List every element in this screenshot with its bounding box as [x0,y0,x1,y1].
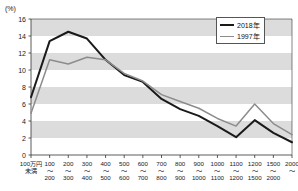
legend-label: 1997年 [237,31,260,41]
grid-band [31,121,292,138]
line-chart: (%) 0246810121416 100万円未満100〜200200〜3003… [0,0,298,191]
legend-item-2018: 2018年 [220,20,260,30]
legend-swatch [220,36,234,37]
grid-band [31,87,292,104]
legend-swatch [220,24,234,26]
grid-band [31,53,292,70]
legend-label: 2018年 [237,20,260,30]
chart-legend: 2018年1997年 [216,17,265,44]
legend-item-1997: 1997年 [220,31,260,41]
